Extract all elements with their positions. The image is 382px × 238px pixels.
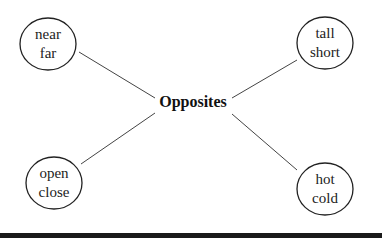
node-label-top: open xyxy=(39,164,68,183)
node-near-far: near far xyxy=(20,18,76,70)
node-label-bottom: short xyxy=(310,43,340,62)
edge-near-far xyxy=(79,52,155,98)
diagram-canvas: near far tall short open close hot cold … xyxy=(0,0,382,238)
node-label-top: tall xyxy=(315,24,334,43)
node-label-bottom: far xyxy=(40,44,57,63)
node-hot-cold: hot cold xyxy=(297,163,353,215)
node-open-close: open close xyxy=(26,157,82,209)
node-tall-short: tall short xyxy=(297,17,353,69)
node-label-top: hot xyxy=(315,170,334,189)
edge-open-close xyxy=(81,113,155,164)
node-label-bottom: close xyxy=(39,183,70,202)
node-label-top: near xyxy=(35,25,61,44)
node-label-bottom: cold xyxy=(312,189,338,208)
edge-hot-cold xyxy=(232,114,297,170)
center-topic-label: Opposites xyxy=(143,93,243,111)
bottom-border-bar xyxy=(0,233,382,238)
